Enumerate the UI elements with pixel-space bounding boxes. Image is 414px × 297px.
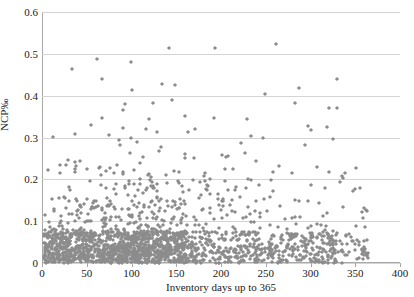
data-point (170, 98, 174, 102)
data-point (86, 212, 90, 216)
data-point (127, 182, 131, 186)
data-point (153, 203, 157, 207)
data-point (85, 197, 89, 201)
data-point (115, 163, 119, 167)
data-point (269, 178, 273, 182)
data-point (321, 213, 325, 217)
data-point (218, 208, 222, 212)
data-point (158, 205, 162, 209)
data-point (203, 170, 207, 174)
data-point (246, 205, 250, 209)
data-point (87, 178, 91, 182)
gridline (42, 96, 400, 97)
data-point (244, 186, 248, 190)
data-point (120, 207, 124, 211)
x-tick-label: 100 (123, 267, 140, 279)
data-point (335, 76, 339, 80)
data-point (298, 215, 302, 219)
y-axis-title: NCP‰ (0, 99, 10, 131)
data-point (155, 189, 159, 193)
data-point (363, 224, 367, 228)
y-tick-label: 0.3 (24, 132, 38, 144)
data-point (181, 190, 185, 194)
data-point (183, 152, 187, 156)
y-tick-label: 0.2 (24, 173, 38, 185)
data-point (361, 216, 365, 220)
data-point (230, 198, 234, 202)
data-point (66, 158, 70, 162)
data-point (325, 125, 329, 129)
data-point (57, 196, 61, 200)
data-point (146, 205, 150, 209)
data-point (46, 168, 50, 172)
plot-area (42, 12, 400, 263)
data-point (274, 42, 278, 46)
data-point (130, 215, 134, 219)
data-point (317, 201, 321, 205)
data-point (365, 238, 369, 242)
data-point (249, 220, 253, 224)
data-point (148, 200, 152, 204)
data-point (182, 156, 186, 160)
data-point (229, 238, 233, 242)
data-point (141, 155, 145, 159)
data-point (227, 202, 231, 206)
data-point (303, 143, 307, 147)
data-point (257, 183, 261, 187)
y-tick-label: 0.1 (24, 215, 38, 227)
data-point (193, 127, 197, 131)
data-point (204, 222, 208, 226)
data-point (290, 171, 294, 175)
data-point (354, 224, 358, 228)
data-point (325, 211, 329, 215)
data-point (98, 173, 102, 177)
data-point (243, 151, 247, 155)
data-point (138, 182, 142, 186)
data-point (192, 156, 196, 160)
data-point (254, 159, 258, 163)
x-tick-label: 300 (302, 267, 319, 279)
data-point (50, 197, 54, 201)
data-point (297, 199, 301, 203)
data-point (69, 67, 73, 71)
data-point (126, 193, 130, 197)
data-point (281, 253, 285, 257)
data-point (245, 117, 249, 121)
data-point (231, 167, 235, 171)
data-point (208, 177, 212, 181)
x-tick-label: 150 (168, 267, 185, 279)
data-point (293, 101, 297, 105)
data-point (175, 207, 179, 211)
x-tick-label: 0 (39, 267, 45, 279)
data-point (163, 209, 167, 213)
y-tick-label: 0.6 (24, 6, 38, 18)
data-point (335, 106, 339, 110)
data-point (128, 151, 132, 155)
data-point (103, 211, 107, 215)
data-point (160, 81, 164, 85)
data-point (99, 182, 103, 186)
data-point (114, 192, 118, 196)
data-point (327, 170, 331, 174)
data-point (361, 257, 365, 261)
data-point (276, 225, 280, 229)
data-point (212, 217, 216, 221)
data-point (172, 83, 176, 87)
data-point (183, 114, 187, 118)
data-point (132, 168, 136, 172)
data-point (123, 102, 127, 106)
data-point (197, 223, 201, 227)
data-point (58, 163, 62, 167)
data-point (217, 226, 221, 230)
data-point (67, 199, 71, 203)
data-point (166, 45, 170, 49)
data-point (216, 192, 220, 196)
data-point (107, 133, 111, 137)
data-point (117, 143, 121, 147)
data-point (277, 164, 281, 168)
data-point (155, 130, 159, 134)
data-point (108, 166, 112, 170)
data-point (138, 177, 142, 181)
data-point (355, 257, 359, 261)
data-point (58, 171, 62, 175)
